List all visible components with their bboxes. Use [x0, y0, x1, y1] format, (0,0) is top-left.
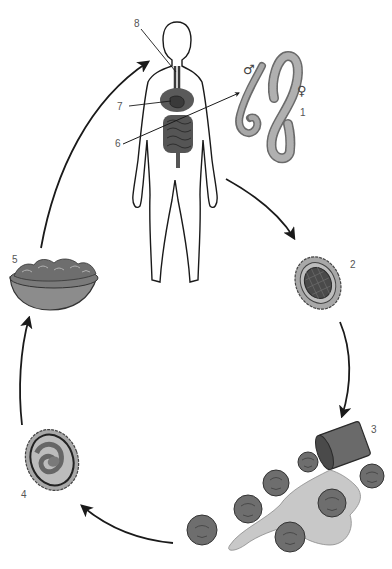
stomach [170, 96, 184, 108]
egg-stage-2 [287, 249, 350, 317]
lettuce [318, 489, 346, 517]
label-stage-2: 2 [350, 260, 356, 270]
label-stage-5: 5 [12, 255, 18, 265]
female-symbol: ♀ [297, 84, 307, 97]
spilled-can [312, 421, 371, 472]
human-body [133, 22, 217, 282]
lettuce [360, 464, 384, 488]
lettuce [234, 495, 262, 523]
label-7-lungs: 7 [117, 102, 123, 112]
male-symbol: ♂ [243, 63, 255, 76]
label-stage-1: 1 [300, 108, 306, 118]
lettuce [263, 470, 289, 496]
label-stage-3: 3 [371, 425, 377, 435]
egg-stage-4 [17, 422, 87, 498]
label-6-intestine: 6 [115, 139, 121, 149]
arrow-body-to-egg [226, 179, 294, 238]
lettuce [187, 515, 217, 545]
label-8-trachea: 8 [134, 19, 140, 29]
lettuce [275, 522, 305, 552]
contaminated-vegetables [187, 421, 384, 552]
lettuce [298, 452, 318, 472]
arrow-bowl-to-body [41, 62, 148, 248]
salad-bowl [10, 259, 98, 310]
life-cycle-diagram [0, 0, 392, 569]
arrow-vegetables-to-egg4 [82, 506, 173, 543]
arrow-egg4-to-bowl [20, 318, 29, 425]
label-stage-4: 4 [21, 490, 27, 500]
arrow-egg-to-vegetables [340, 322, 349, 416]
